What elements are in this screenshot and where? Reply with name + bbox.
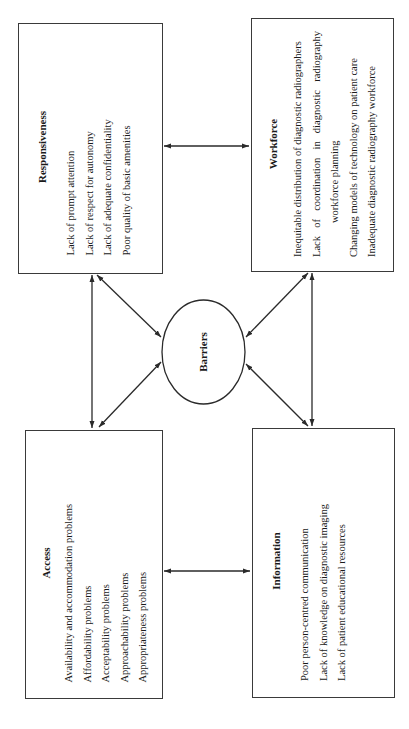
barriers-label: Barriers [197, 332, 209, 372]
responsiveness-title: Responsiveness [35, 38, 47, 255]
list-item: Poor quality of basic amenities [117, 38, 136, 255]
workforce-list: Inequitable distribution of diagnostic r… [288, 31, 381, 257]
arrow-information-barriers [246, 364, 308, 426]
word: Lack [307, 236, 326, 257]
arrow-responsiveness-barriers [97, 275, 161, 337]
list-item: Acceptability problems [97, 443, 116, 682]
arrow-workforce-barriers [246, 273, 308, 337]
list-item: Inequitable distribution of diagnostic r… [288, 31, 307, 257]
list-item: Appropriateness problems [134, 443, 153, 682]
information-content: Information Poor person-centred communic… [257, 433, 390, 693]
list-item: Availability and accommodation problems [60, 443, 79, 682]
information-list: Poor person-centred communication Lack o… [295, 441, 351, 681]
list-item: Lack of respect for autonomy [80, 38, 99, 255]
workforce-box: Workforce Inequitable distribution of di… [251, 18, 394, 272]
responsiveness-list: Lack of prompt attention Lack of respect… [61, 38, 135, 255]
list-item: Inadequate diagnostic radiography workfo… [362, 31, 381, 257]
information-box: Information Poor person-centred communic… [252, 428, 395, 698]
list-item: Lack of knowledge on diagnostic imaging [314, 441, 333, 681]
word: diagnostic [307, 90, 326, 133]
word: of [307, 219, 326, 228]
list-item: Lack of prompt attention [61, 38, 80, 255]
arrow-access-barriers [99, 362, 161, 427]
list-item: Lack of adequate confidentiality [98, 38, 117, 255]
responsiveness-box: Responsiveness Lack of prompt attention … [18, 23, 163, 274]
list-item-line2: workforce planning [325, 31, 344, 257]
word: coordination [307, 158, 326, 211]
access-list: Availability and accommodation problems … [60, 443, 153, 682]
list-item: Approachability problems [116, 443, 135, 682]
list-item: Lack of patient educational resources [332, 441, 351, 681]
word: in [307, 141, 326, 149]
access-title: Access [40, 443, 52, 682]
access-box: Access Availability and accommodation pr… [25, 430, 163, 699]
list-item-line1: Lack of coordination in diagnostic radio… [307, 31, 326, 257]
access-content: Access Availability and accommodation pr… [30, 435, 158, 694]
list-item: Affordability problems [79, 443, 98, 682]
workforce-title: Workforce [266, 31, 278, 257]
workforce-content: Workforce Inequitable distribution of di… [256, 23, 389, 267]
information-title: Information [269, 441, 281, 681]
responsiveness-content: Responsiveness Lack of prompt attention … [23, 28, 158, 269]
list-item: Poor person-centred communication [295, 441, 314, 681]
list-item: Changing models of technology on patient… [344, 31, 363, 257]
word: radiography [307, 31, 326, 82]
